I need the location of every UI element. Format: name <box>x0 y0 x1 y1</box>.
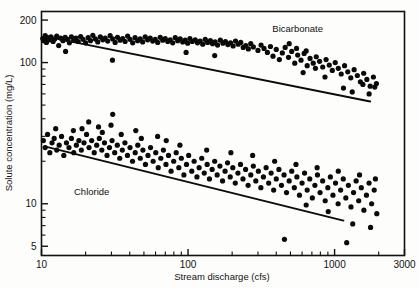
data-point <box>230 165 235 170</box>
y-axis-title: Solute concentration (mg/L) <box>3 75 14 192</box>
data-point <box>297 193 302 198</box>
data-point <box>364 193 369 198</box>
data-point <box>184 50 189 55</box>
data-point <box>166 153 171 158</box>
data-point <box>243 167 248 172</box>
data-point <box>250 153 255 158</box>
data-point <box>276 167 281 172</box>
data-point <box>336 201 341 206</box>
data-point <box>333 181 338 186</box>
data-point <box>354 178 359 183</box>
data-point <box>323 198 328 203</box>
data-point <box>143 162 148 167</box>
data-point <box>56 43 61 48</box>
series-label-bicarbonate: Bicarbonate <box>272 23 323 34</box>
data-point <box>204 147 209 152</box>
data-point <box>274 176 279 181</box>
data-point <box>63 49 68 54</box>
data-point <box>268 44 273 49</box>
data-point <box>342 63 347 68</box>
data-point <box>283 45 288 50</box>
data-point <box>282 237 287 242</box>
data-point <box>251 163 256 168</box>
data-point <box>270 54 275 59</box>
data-point <box>271 187 276 192</box>
data-point <box>102 140 107 145</box>
data-point <box>217 163 222 168</box>
data-point <box>57 143 62 148</box>
data-point <box>155 134 160 139</box>
data-point <box>371 74 376 79</box>
data-point <box>186 153 191 158</box>
data-point <box>222 169 227 174</box>
data-point <box>86 119 91 124</box>
data-point <box>336 66 341 71</box>
data-point <box>69 136 74 141</box>
data-point <box>97 136 102 141</box>
data-point <box>286 55 291 60</box>
data-point <box>174 150 179 155</box>
data-point <box>119 132 124 137</box>
data-point <box>298 58 303 63</box>
data-point <box>59 134 64 139</box>
data-point <box>281 172 286 177</box>
data-point <box>341 85 346 90</box>
data-point <box>351 190 356 195</box>
data-point <box>113 40 118 45</box>
data-point <box>133 150 138 155</box>
data-point <box>357 172 362 177</box>
data-point <box>117 156 122 161</box>
data-point <box>274 47 279 52</box>
data-point <box>47 150 52 155</box>
data-point <box>135 143 140 148</box>
data-point <box>330 193 335 198</box>
data-point <box>368 84 373 89</box>
data-point <box>53 126 58 131</box>
data-point <box>356 198 361 203</box>
data-point <box>287 178 292 183</box>
y-axis-tick-labels: 200100105 <box>20 15 37 252</box>
data-point <box>189 169 194 174</box>
data-point <box>284 190 289 195</box>
data-point <box>231 43 236 48</box>
data-point <box>228 150 233 155</box>
data-point <box>369 201 374 206</box>
data-point <box>264 165 269 170</box>
data-point <box>294 174 299 179</box>
data-point <box>253 178 258 183</box>
data-point <box>310 195 315 200</box>
data-point <box>122 140 127 145</box>
data-point <box>320 64 325 69</box>
trend-line-chloride <box>45 146 344 220</box>
data-point <box>197 165 202 170</box>
data-point <box>238 40 243 45</box>
data-point <box>185 41 190 46</box>
data-point <box>372 85 377 90</box>
x-tick-label: 3000 <box>393 259 416 270</box>
data-point <box>194 174 199 179</box>
plot-frame <box>42 12 405 256</box>
x-axis-ticks <box>42 249 405 256</box>
scatter-plot-canvas: 1010010003000 200100105 BicarbonateChlor… <box>0 0 419 288</box>
data-point <box>248 172 253 177</box>
data-point <box>92 150 97 155</box>
data-point <box>346 183 351 188</box>
data-point <box>292 61 297 66</box>
data-point <box>99 147 104 152</box>
data-point <box>177 143 182 148</box>
data-point <box>76 138 81 143</box>
data-point <box>299 181 304 186</box>
data-point <box>89 138 94 143</box>
data-point <box>364 77 369 82</box>
data-point <box>293 162 298 167</box>
data-point <box>86 145 91 150</box>
data-point <box>311 61 316 66</box>
data-point <box>110 58 115 63</box>
data-point <box>255 48 260 53</box>
data-point <box>343 195 348 200</box>
data-point <box>295 52 300 57</box>
data-point <box>156 165 161 170</box>
data-point <box>96 124 101 129</box>
data-point <box>326 209 331 214</box>
data-point <box>304 48 309 53</box>
